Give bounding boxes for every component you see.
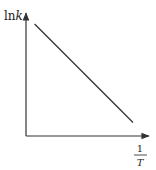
x-label-numerator: 1 xyxy=(137,143,143,154)
y-axis-label: lnk xyxy=(4,9,23,23)
chart: lnk 1 T xyxy=(0,0,156,170)
series-line xyxy=(35,24,133,122)
x-axis-label: 1 T xyxy=(134,143,147,168)
x-label-denominator: T xyxy=(137,157,145,168)
